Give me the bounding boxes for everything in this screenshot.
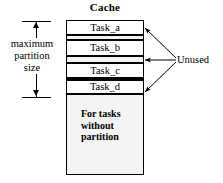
diagram-title: Cache: [66, 1, 144, 14]
cache-partition-diagram: Cache Task_a Task_b Task_c Task_d For ta…: [0, 0, 223, 183]
free-pool-label-line-1: For tasks: [81, 108, 121, 120]
cache-row-label: Task_d: [90, 82, 120, 93]
cache-row-label: Task_c: [90, 65, 120, 76]
dimension-arrowhead-up-icon: [33, 22, 39, 28]
unused-label: Unused: [177, 53, 209, 66]
cache-row-task-a: Task_a: [67, 21, 143, 35]
cache-row-unused-2: [67, 56, 143, 63]
cache-free-pool-region: For tasks without partition: [67, 94, 143, 174]
unused-callout-arrows-icon: [143, 24, 179, 96]
free-pool-label-line-2: without: [81, 120, 121, 132]
cache-row-task-c: Task_c: [67, 63, 143, 78]
dimension-tick-bottom: [22, 97, 51, 98]
cache-row-label: Task_a: [90, 22, 120, 33]
max-partition-size-line-1: maximum: [0, 38, 64, 50]
cache-row-task-d: Task_d: [67, 80, 143, 94]
max-partition-size-line-3: size: [0, 62, 64, 74]
max-partition-size-label: maximum partition size: [0, 38, 64, 74]
cache-memory-box: Task_a Task_b Task_c Task_d For tasks wi…: [66, 20, 144, 175]
free-pool-label-line-3: partition: [81, 131, 121, 143]
max-partition-size-line-2: partition: [0, 50, 64, 62]
cache-row-label: Task_b: [90, 43, 120, 54]
cache-row-task-b: Task_b: [67, 40, 143, 56]
dimension-arrowhead-down-icon: [33, 90, 39, 96]
free-pool-label: For tasks without partition: [81, 108, 121, 143]
